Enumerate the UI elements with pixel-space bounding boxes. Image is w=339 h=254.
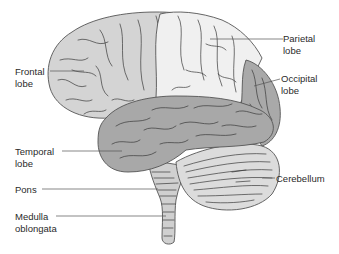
label-temporal-lobe: Temporal lobe [15, 146, 54, 169]
label-cerebellum: Cerebellum [276, 173, 325, 185]
label-parietal-lobe: Parietal lobe [283, 33, 315, 56]
cerebellum [176, 144, 279, 210]
label-medulla-oblongata: Medulla oblongata [15, 211, 57, 234]
label-frontal-lobe: Frontal lobe [15, 66, 45, 89]
label-pons: Pons [15, 184, 37, 196]
label-occipital-lobe: Occipital lobe [281, 73, 317, 96]
